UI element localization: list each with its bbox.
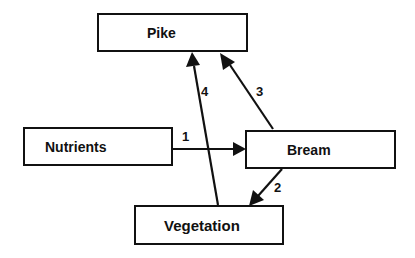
node-vegetation: Vegetation <box>134 205 284 245</box>
edge-4-vegetation-to-pike <box>186 52 218 205</box>
node-pike: Pike <box>97 13 248 52</box>
edge-label-3: 3 <box>256 84 263 99</box>
node-label: Vegetation <box>164 217 240 234</box>
edge-label-1: 1 <box>182 129 189 144</box>
node-bream: Bream <box>245 130 396 169</box>
node-label: Nutrients <box>45 139 106 155</box>
node-label: Pike <box>147 25 176 41</box>
node-nutrients: Nutrients <box>23 127 173 166</box>
edge-3-bream-to-pike <box>220 53 273 129</box>
node-label: Bream <box>287 142 331 158</box>
edge-label-4: 4 <box>201 84 208 99</box>
arrowhead-icon <box>186 52 200 67</box>
edge-label-2: 2 <box>274 180 281 195</box>
